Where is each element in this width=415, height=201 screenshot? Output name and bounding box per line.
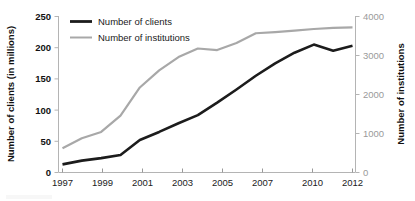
right-tick-label-2000: 2000 <box>363 89 384 100</box>
right-axis-ticks <box>356 17 360 173</box>
legend-label-clients: Number of clients <box>98 16 172 27</box>
right-axis: 4000 3000 2000 1000 0 Number of institut… <box>356 11 407 178</box>
left-tick-label-200: 200 <box>35 42 51 53</box>
x-tick-label-2010: 2010 <box>302 177 323 188</box>
left-tick-label-0: 0 <box>46 167 51 178</box>
legend-label-institutions: Number of institutions <box>98 32 190 43</box>
x-tick-label-2003: 2003 <box>172 177 193 188</box>
left-axis: 250 200 150 100 50 0 Number of clients (… <box>5 11 59 178</box>
right-tick-label-3000: 3000 <box>363 50 384 61</box>
page-edge-artifact <box>6 195 52 199</box>
left-tick-label-50: 50 <box>40 136 51 147</box>
chart-container: 250 200 150 100 50 0 Number of clients (… <box>0 0 415 201</box>
right-axis-title: Number of institutions <box>395 43 406 144</box>
x-tick-label-2005: 2005 <box>212 177 233 188</box>
left-tick-label-100: 100 <box>35 105 51 116</box>
x-tick-label-2007: 2007 <box>252 177 273 188</box>
x-tick-label-2001: 2001 <box>132 177 153 188</box>
line-chart: 250 200 150 100 50 0 Number of clients (… <box>0 0 415 201</box>
left-tick-label-150: 150 <box>35 73 51 84</box>
left-axis-ticks <box>55 17 59 173</box>
x-tick-label-1999: 1999 <box>92 177 113 188</box>
left-axis-title: Number of clients (in millions) <box>5 26 16 162</box>
x-tick-label-2012: 2012 <box>342 177 363 188</box>
left-tick-label-250: 250 <box>35 11 51 22</box>
right-tick-label-0: 0 <box>363 167 368 178</box>
legend: Number of clients Number of institutions <box>70 16 190 43</box>
x-tick-label-1997: 1997 <box>52 177 73 188</box>
series-line-clients <box>63 45 353 165</box>
x-axis: 1997 1999 2001 2003 2005 2007 2010 2012 <box>52 169 363 189</box>
right-tick-label-1000: 1000 <box>363 128 384 139</box>
x-axis-ticks <box>63 169 353 173</box>
right-tick-label-4000: 4000 <box>363 11 384 22</box>
